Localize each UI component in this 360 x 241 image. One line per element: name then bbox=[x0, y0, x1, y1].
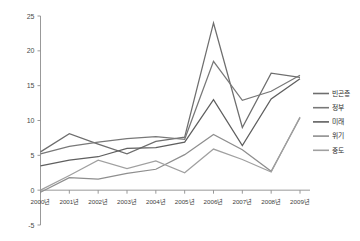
x-axis-ticks: 2000년2001년2002년2003년2004년2005년2006년2007년… bbox=[31, 190, 310, 205]
y-tick-label: 20 bbox=[27, 47, 35, 54]
y-tick-label: -5 bbox=[28, 222, 34, 229]
legend-label-1: 정부 bbox=[332, 103, 344, 112]
x-tick-label: 2009년 bbox=[290, 198, 310, 205]
x-tick-label: 2000년 bbox=[31, 198, 51, 205]
line-chart-figure: 2520151050-5 2000년2001년2002년2003년2004년20… bbox=[0, 0, 360, 241]
y-tick-label: 15 bbox=[27, 82, 35, 89]
y-tick-label: 10 bbox=[27, 117, 35, 124]
series-lines bbox=[41, 23, 301, 192]
x-tick-label: 2008년 bbox=[261, 198, 281, 205]
legend-label-3: 위기 bbox=[332, 131, 344, 140]
legend-label-4: 중도 bbox=[332, 147, 344, 154]
series-line-0 bbox=[41, 23, 301, 154]
y-tick-label: 0 bbox=[31, 187, 35, 194]
x-tick-label: 2004년 bbox=[146, 198, 166, 205]
x-tick-label: 2001년 bbox=[59, 198, 79, 205]
legend-label-2: 미래 bbox=[332, 117, 344, 126]
y-tick-label: 5 bbox=[31, 152, 35, 159]
series-line-1 bbox=[41, 61, 301, 154]
chart-legend: 빈곤층정부미래위기중도 bbox=[313, 89, 350, 154]
axis-lines bbox=[41, 16, 311, 225]
series-line-3 bbox=[41, 118, 301, 193]
x-tick-label: 2007년 bbox=[232, 198, 252, 205]
x-tick-label: 2002년 bbox=[88, 198, 108, 205]
x-tick-label: 2003년 bbox=[117, 198, 137, 205]
x-tick-label: 2005년 bbox=[175, 198, 195, 205]
x-tick-label: 2006년 bbox=[204, 198, 224, 205]
y-tick-label: 25 bbox=[27, 13, 35, 20]
y-axis-ticks: 2520151050-5 bbox=[27, 13, 41, 229]
series-line-4 bbox=[41, 117, 301, 190]
legend-label-0: 빈곤층 bbox=[332, 89, 350, 97]
chart-canvas: 2520151050-5 2000년2001년2002년2003년2004년20… bbox=[0, 0, 360, 241]
